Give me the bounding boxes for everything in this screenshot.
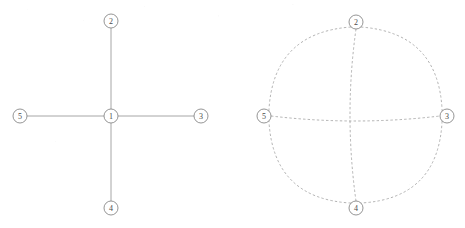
nodes-layer: 123452345 [13,14,454,215]
graph-node-star-graph-3[interactable]: 3 [194,109,208,123]
edge-5-3 [271,116,440,121]
figure-root: 123452345 [0,0,465,228]
edge-4-5 [269,121,351,203]
node-circle-4 [349,201,363,215]
node-circle-3 [440,109,454,123]
node-circle-2 [104,14,118,28]
node-circle-5 [257,109,271,123]
graph-node-star-graph-1[interactable]: 1 [104,109,118,123]
edge-3-4 [361,121,442,203]
graph-node-cycle-graph-3[interactable]: 3 [440,109,454,123]
node-circle-4 [104,201,118,215]
graph-node-star-graph-4[interactable]: 4 [104,201,118,215]
graph-node-star-graph-5[interactable]: 5 [13,109,27,123]
node-circle-3 [194,109,208,123]
graph-node-cycle-graph-4[interactable]: 4 [349,201,363,215]
graph-node-cycle-graph-2[interactable]: 2 [349,15,363,29]
edges-layer [27,27,442,203]
node-circle-1 [104,109,118,123]
graph-node-star-graph-2[interactable]: 2 [104,14,118,28]
edge-2-4 [350,29,356,201]
edge-5-2 [269,27,351,111]
graph-node-cycle-graph-5[interactable]: 5 [257,109,271,123]
graph-diagram-canvas: 123452345 [0,0,465,228]
node-circle-5 [13,109,27,123]
edge-2-3 [361,27,442,111]
node-circle-2 [349,15,363,29]
